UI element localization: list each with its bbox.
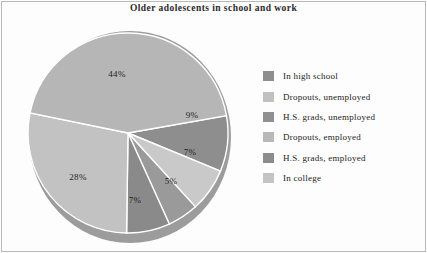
legend-item-label: Dropouts, unemployed [283,92,371,102]
legend-item: In high school [263,66,423,86]
legend-swatch-icon [263,92,274,102]
legend-item: Dropouts, unemployed [263,86,423,106]
slice-value-label-hs-grads-employed: 7% [129,195,142,205]
pie-plot-area: 44%9%7%5%7%28% [0,16,252,253]
slice-value-label-dropouts-unemployed: 9% [186,110,199,120]
legend-item: Dropouts, employed [263,127,423,147]
chart-title: Older adolescents in school and work [0,3,427,13]
legend-swatch-icon [263,112,274,122]
chart-legend: In high schoolDropouts, unemployedH.S. g… [263,66,423,188]
slice-value-label-hs-grads-unemployed: 7% [184,147,197,157]
legend-item-label: Dropouts, employed [283,132,361,142]
legend-swatch-icon [263,153,274,163]
slice-value-label-in-college: 28% [69,172,87,182]
legend-item-label: H.S. grads, unemployed [283,112,375,122]
slice-value-label-dropouts-employed: 5% [165,176,178,186]
pie-svg: 44%9%7%5%7%28% [0,16,252,253]
legend-item-label: H.S. grads, employed [283,153,366,163]
legend-swatch-icon [263,71,274,81]
legend-item: H.S. grads, employed [263,148,423,168]
legend-item-label: In high school [283,71,338,81]
legend-swatch-icon [263,132,274,142]
legend-swatch-icon [263,173,274,183]
frame-border-right [425,2,426,251]
frame-border-top [1,1,426,2]
legend-item-label: In college [283,173,321,183]
legend-item: In college [263,168,423,188]
pie-chart-figure: Older adolescents in school and work 44%… [0,0,427,253]
slice-value-label-in-high-school: 44% [108,69,126,79]
legend-item: H.S. grads, unemployed [263,107,423,127]
